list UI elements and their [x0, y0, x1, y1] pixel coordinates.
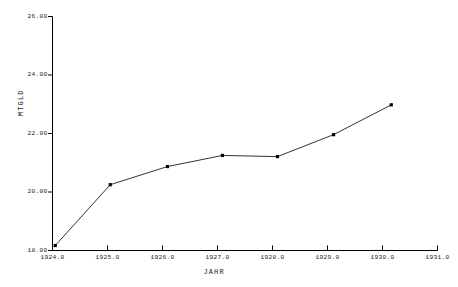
x-axis-ticks	[53, 246, 438, 251]
x-tick-label: 1925.0	[88, 254, 128, 261]
axis-lines	[53, 17, 438, 251]
x-tick-label: 1924.0	[33, 254, 73, 261]
x-axis-title: JAHR	[204, 268, 225, 276]
y-axis-ticks	[48, 17, 53, 251]
y-tick-label: 22.00	[15, 130, 48, 137]
data-series-line	[55, 105, 391, 246]
x-tick-label: 1931.0	[418, 254, 458, 261]
y-tick-label: 18.00	[15, 247, 48, 254]
y-tick-label: 20.00	[15, 188, 48, 195]
chart-figure: 18.0020.0022.0024.0026.00 1924.01925.019…	[0, 0, 458, 287]
x-tick-label: 1927.0	[198, 254, 238, 261]
x-tick-label: 1926.0	[143, 254, 183, 261]
y-axis-title: MTGLD	[17, 89, 25, 116]
x-tick-label: 1928.0	[253, 254, 293, 261]
y-tick-label: 26.00	[15, 13, 48, 20]
data-point-markers	[54, 103, 393, 247]
line-chart-plot	[0, 0, 458, 287]
x-tick-label: 1930.0	[363, 254, 403, 261]
x-tick-label: 1929.0	[308, 254, 348, 261]
y-tick-label: 24.00	[15, 71, 48, 78]
